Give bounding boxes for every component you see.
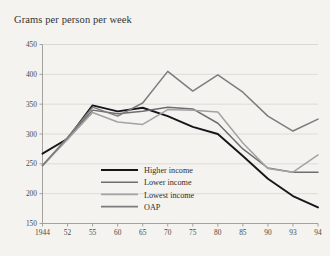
- x-tick-label: 93: [289, 228, 297, 237]
- x-tick-label: 75: [189, 228, 197, 237]
- y-tick-label: 450: [26, 40, 37, 49]
- x-tick-label: 80: [214, 228, 222, 237]
- x-tick-label: 65: [139, 228, 147, 237]
- series-line: [43, 71, 319, 165]
- x-tick-label: 90: [264, 228, 272, 237]
- legend-label: Lowest income: [144, 191, 195, 200]
- chart-figure: Grams per person per week 15020025030035…: [0, 0, 330, 256]
- line-chart-plot: 150200250300350400450 194452556065707580…: [0, 0, 330, 256]
- y-axis: 150200250300350400450: [26, 40, 43, 228]
- legend-label: OAP: [144, 203, 161, 212]
- y-tick-label: 150: [26, 219, 37, 228]
- legend-label: Lower income: [144, 178, 192, 187]
- y-tick-label: 350: [26, 100, 37, 109]
- x-tick-label: 1944: [35, 228, 50, 237]
- y-tick-label: 400: [26, 70, 37, 79]
- x-tick-label: 85: [239, 228, 247, 237]
- x-tick-label: 52: [64, 228, 72, 237]
- x-tick-label: 94: [314, 228, 322, 237]
- y-tick-label: 300: [26, 130, 37, 139]
- legend-label: Higher income: [144, 166, 193, 175]
- y-tick-label: 200: [26, 189, 37, 198]
- x-tick-label: 70: [164, 228, 172, 237]
- chart-legend: Higher incomeLower incomeLowest incomeOA…: [101, 166, 195, 212]
- x-tick-label: 60: [114, 228, 122, 237]
- x-axis: 19445255606570758085909394: [35, 224, 322, 238]
- y-tick-label: 250: [26, 159, 37, 168]
- x-tick-label: 55: [89, 228, 97, 237]
